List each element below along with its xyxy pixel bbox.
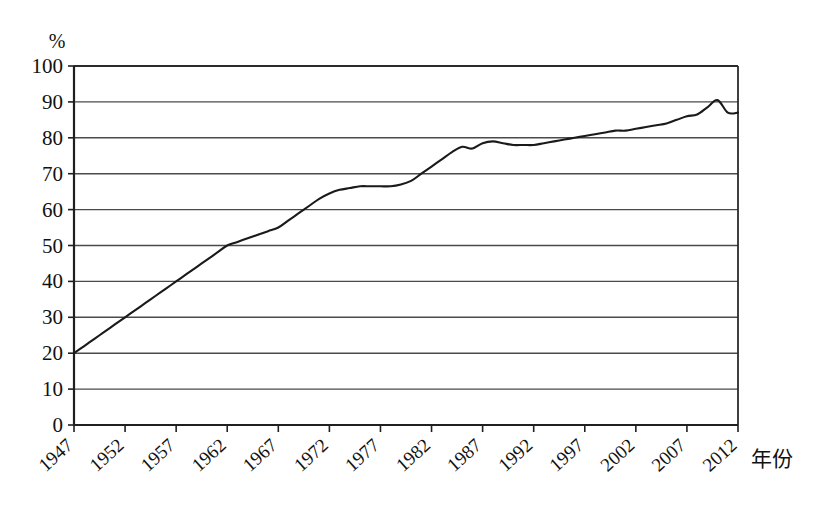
- x-axis-tick-label: 1982: [392, 434, 434, 475]
- gridlines-group: [74, 102, 738, 389]
- y-axis-tick-label: 10: [42, 377, 63, 401]
- x-axis-title: 年份: [751, 447, 793, 471]
- y-axis-unit-label: %: [49, 30, 66, 52]
- x-axis-tick-label: 2012: [698, 434, 740, 475]
- x-axis-tick-label: 1992: [494, 434, 536, 475]
- x-axis-tick-label: 1967: [239, 434, 281, 475]
- x-axis-tick-labels: 1947195219571962196719721977198219871992…: [34, 434, 740, 475]
- y-axis-tick-label: 90: [42, 90, 63, 114]
- x-axis-tick-label: 2007: [647, 434, 689, 475]
- y-axis-tick-label: 0: [53, 413, 64, 437]
- y-axis-tick-labels: 0102030405060708090100: [32, 54, 64, 437]
- chart-canvas: 0102030405060708090100 19471952195719621…: [0, 0, 827, 511]
- y-axis-tick-label: 40: [42, 269, 63, 293]
- x-axis-tick-label: 1972: [290, 434, 332, 475]
- x-axis-tick-label: 2002: [596, 434, 638, 475]
- x-axis-tick-label: 1987: [443, 434, 485, 475]
- x-axis-tick-label: 1957: [137, 434, 179, 475]
- x-axis-tick-label: 1977: [341, 434, 383, 475]
- y-axis-tick-label: 30: [42, 305, 63, 329]
- x-axis-tick-label: 1962: [188, 434, 230, 475]
- x-axis-tick-label: 1952: [85, 434, 127, 475]
- line-chart: 0102030405060708090100 19471952195719621…: [0, 0, 827, 511]
- y-axis-tick-label: 20: [42, 341, 63, 365]
- x-axis-tick-label: 1997: [545, 434, 587, 475]
- y-axis-tick-label: 100: [32, 54, 64, 78]
- y-axis-tick-label: 50: [42, 234, 63, 258]
- y-axis-tick-label: 70: [42, 162, 63, 186]
- y-axis-tick-label: 80: [42, 126, 63, 150]
- x-axis-tick-label: 1947: [34, 434, 76, 475]
- y-axis-tick-label: 60: [42, 198, 63, 222]
